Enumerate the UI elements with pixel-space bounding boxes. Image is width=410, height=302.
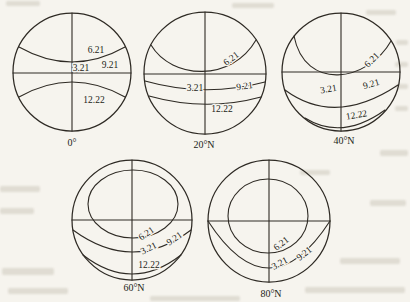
diagram-60n: 6.21 3.21 9.21 12.22 60°N xyxy=(72,160,192,293)
mar21-label-80n: 3.21 xyxy=(270,255,290,272)
mar21-label-40n: 3.21 xyxy=(319,83,337,96)
jun21-label-0deg: 6.21 xyxy=(88,45,105,55)
sep21-label-0deg: 9.21 xyxy=(102,60,119,70)
dec22-label-60n: 12.22 xyxy=(138,260,160,270)
latitude-label-40n: 40°N xyxy=(333,135,354,146)
diagram-40n: 6.21 3.21 9.21 12.22 40°N xyxy=(282,13,400,146)
scanned-figure-page: 6.21 3.21 9.21 12.22 0° 6.21 3.21 9.21 1… xyxy=(0,0,410,302)
latitude-label-60n: 60°N xyxy=(123,282,144,293)
sep21-label-20n: 9.21 xyxy=(236,80,254,92)
diagram-20n: 6.21 3.21 9.21 12.22 20°N xyxy=(144,12,266,150)
sun-path-figure: 6.21 3.21 9.21 12.22 0° 6.21 3.21 9.21 1… xyxy=(0,0,410,302)
dec22-label-0deg: 12.22 xyxy=(83,95,105,105)
latitude-label-80n: 80°N xyxy=(260,288,281,299)
dec22-label-40n: 12.22 xyxy=(345,108,368,122)
jun21-path-60n xyxy=(88,170,178,238)
mar21-label-0deg: 3.21 xyxy=(73,63,90,73)
jun21-label-20n: 6.21 xyxy=(222,49,241,67)
jun21-path-80n xyxy=(228,179,308,253)
jun21-label-80n: 6.21 xyxy=(272,234,291,252)
sep21-label-40n: 9.21 xyxy=(362,77,381,91)
dec22-label-20n: 12.22 xyxy=(211,104,233,114)
diagram-0deg: 6.21 3.21 9.21 12.22 0° xyxy=(13,13,131,148)
sep21-label-80n: 9.21 xyxy=(295,244,314,262)
jun21-label-40n: 6.21 xyxy=(362,50,381,69)
sep21-label-60n: 9.21 xyxy=(165,230,185,248)
latitude-label-20n: 20°N xyxy=(193,139,214,150)
jun21-path-20n xyxy=(151,40,256,71)
diagram-80n: 6.21 3.21 9.21 80°N xyxy=(208,160,330,299)
mar21-label-20n: 3.21 xyxy=(187,83,204,93)
latitude-label-0deg: 0° xyxy=(68,137,77,148)
